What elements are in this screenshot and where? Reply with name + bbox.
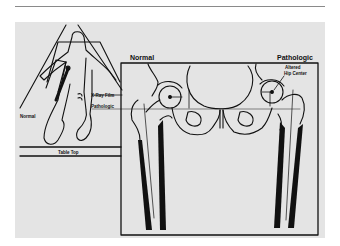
left-femur-cortex-medial [138,140,152,230]
right-obturator [238,112,253,126]
label-normal-right: Normal [130,54,154,61]
right-hip-center [271,91,274,94]
label-pathologic-right: Pathologic [277,54,313,62]
tilted-femur [56,69,68,100]
hip-mark [78,94,82,100]
pelvis-frame [121,63,318,235]
right-femur-cortex-medial [274,122,285,228]
tilted-femur-head [66,66,70,70]
left-obturator [186,112,201,126]
xray-film-outline [47,42,120,82]
left-femur-cortex-lateral [158,120,166,230]
label-normal-left: Normal [20,114,36,119]
left-iliac-wing [148,64,158,96]
right-iliac-wing [255,64,262,80]
hip-xray-diagram: Normal X-Ray Film Pathologic Table Top N… [0,0,340,246]
label-pathologic-left: Pathologic [91,104,114,109]
left-femur-outline [131,100,172,224]
label-table-top: Table Top [58,150,79,155]
left-hip-center [169,96,172,99]
left-acetabulum-roof [158,82,182,88]
label-altered: Altered [285,65,301,70]
pelvic-inlet [187,66,253,109]
label-hip-center: Hip Center [284,71,307,76]
patient-leg-right [77,58,92,140]
label-xray-film: X-Ray Film [91,93,114,98]
pelvis-drawing [131,64,304,230]
